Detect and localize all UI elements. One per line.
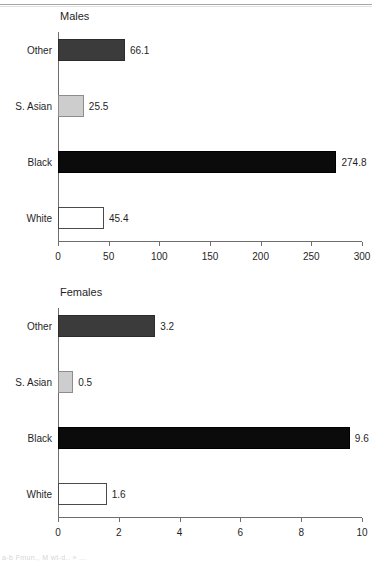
x-tick-label-males-5: 250	[303, 251, 320, 262]
x-tick-label-females-3: 6	[238, 527, 244, 538]
x-tick-label-females-0: 0	[55, 527, 61, 538]
bar-row: Other3.2	[58, 315, 362, 337]
bar-row: Other66.1	[58, 39, 362, 61]
x-tick-females-4	[301, 518, 302, 522]
x-tick-label-males-6: 300	[354, 251, 371, 262]
x-tick-males-1	[109, 242, 110, 246]
bar-row: S. Asian0.5	[58, 371, 362, 393]
x-tick-males-5	[311, 242, 312, 246]
bar-females-s-asian	[58, 371, 73, 393]
x-tick-label-males-3: 150	[202, 251, 219, 262]
category-label-males-2: S. Asian	[15, 101, 52, 112]
bar-row: White1.6	[58, 483, 362, 505]
plot-area-males: 050100150200250300White45.4Black274.8S. …	[58, 32, 362, 242]
x-tick-label-females-5: 10	[356, 527, 367, 538]
x-tick-males-4	[261, 242, 262, 246]
plot-area-females: 0246810White1.6Black9.6S. Asian0.5Other3…	[58, 308, 362, 518]
category-label-males-3: Other	[27, 45, 52, 56]
bar-males-black	[58, 151, 336, 173]
x-tick-females-5	[362, 518, 363, 522]
x-axis-females	[58, 517, 362, 518]
value-label-males-0: 45.4	[109, 213, 128, 224]
category-label-females-1: Black	[28, 433, 52, 444]
x-tick-label-females-4: 8	[298, 527, 304, 538]
page-top-rule	[0, 4, 372, 5]
bar-females-other	[58, 315, 155, 337]
category-label-females-0: White	[26, 489, 52, 500]
x-tick-females-0	[58, 518, 59, 522]
category-label-males-1: Black	[28, 157, 52, 168]
value-label-females-0: 1.6	[112, 489, 126, 500]
value-label-females-2: 0.5	[78, 377, 92, 388]
x-tick-label-males-2: 100	[151, 251, 168, 262]
page-caption-fragment: a-b Fmun., M wt-d.. » ...	[2, 554, 86, 561]
bar-females-white	[58, 483, 107, 505]
bar-row: Black9.6	[58, 427, 362, 449]
x-tick-label-males-0: 0	[55, 251, 61, 262]
category-label-females-3: Other	[27, 321, 52, 332]
x-tick-males-3	[210, 242, 211, 246]
x-tick-label-males-1: 50	[103, 251, 114, 262]
x-tick-females-3	[240, 518, 241, 522]
x-tick-label-males-4: 200	[252, 251, 269, 262]
value-label-males-2: 25.5	[89, 101, 108, 112]
x-tick-males-6	[362, 242, 363, 246]
chart-title-females: Females	[60, 286, 102, 298]
value-label-males-1: 274.8	[341, 157, 366, 168]
x-tick-label-females-1: 2	[116, 527, 122, 538]
chart-title-males: Males	[60, 10, 89, 22]
chart-males: Males 050100150200250300White45.4Black27…	[0, 10, 372, 272]
x-tick-males-2	[159, 242, 160, 246]
bar-females-black	[58, 427, 350, 449]
value-label-females-1: 9.6	[355, 433, 369, 444]
bar-males-s-asian	[58, 95, 84, 117]
chart-females: Females 0246810White1.6Black9.6S. Asian0…	[0, 286, 372, 548]
category-label-females-2: S. Asian	[15, 377, 52, 388]
x-tick-males-0	[58, 242, 59, 246]
value-label-males-3: 66.1	[130, 45, 149, 56]
x-tick-females-2	[180, 518, 181, 522]
bar-males-other	[58, 39, 125, 61]
bar-row: Black274.8	[58, 151, 362, 173]
x-tick-label-females-2: 4	[177, 527, 183, 538]
x-tick-females-1	[119, 518, 120, 522]
value-label-females-3: 3.2	[160, 321, 174, 332]
category-label-males-0: White	[26, 213, 52, 224]
bar-row: White45.4	[58, 207, 362, 229]
bar-males-white	[58, 207, 104, 229]
page-top-rule-shadow	[0, 6, 372, 7]
bar-row: S. Asian25.5	[58, 95, 362, 117]
